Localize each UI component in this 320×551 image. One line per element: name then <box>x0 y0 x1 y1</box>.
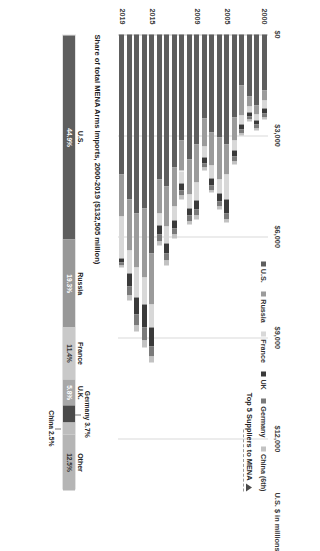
bar-segment <box>119 174 124 216</box>
bar-segment <box>202 167 207 170</box>
bar-segment <box>157 234 162 241</box>
leader-line-germany <box>75 414 81 415</box>
bar-segment <box>179 140 184 170</box>
bar-segment <box>127 34 132 199</box>
bar-segment <box>187 221 192 224</box>
bar-segment <box>247 119 252 121</box>
bar-stack <box>232 34 237 489</box>
bar-segment <box>247 34 252 96</box>
share-segment-value: 11.4% <box>66 344 73 362</box>
bar-segment <box>142 208 147 277</box>
bar-segment <box>172 228 177 234</box>
share-segment <box>63 405 75 422</box>
y-tick-label: $9,000 <box>273 326 282 349</box>
bar-stack <box>172 34 177 489</box>
bar-stack <box>134 34 139 489</box>
bar-segment <box>149 346 154 356</box>
bar-segment <box>232 140 237 150</box>
bar-segment <box>164 186 169 226</box>
bar-segment <box>217 34 222 137</box>
bar-segment <box>142 277 147 304</box>
bar-segment <box>239 34 244 85</box>
bar-segment <box>119 34 124 174</box>
bar-stack <box>142 34 147 489</box>
bar-segment <box>187 215 192 221</box>
bar-segment <box>217 179 222 193</box>
bar-segment <box>179 34 184 140</box>
bar-segment <box>172 34 177 167</box>
bar-segment <box>239 115 244 124</box>
bar-stack <box>179 34 184 489</box>
bar-segment <box>127 250 132 274</box>
bar-segment <box>134 297 139 315</box>
y-axis-tick-labels: $0$3,000$6,000$9,000$12,000 <box>270 34 282 489</box>
bar-segment <box>262 34 267 90</box>
bar-segment <box>254 128 259 130</box>
bar-segment <box>209 34 214 132</box>
bar-segment <box>187 208 192 215</box>
bar-segment <box>119 216 124 258</box>
bar-segment <box>127 199 132 250</box>
gridline <box>118 135 268 136</box>
bar-segment <box>172 167 177 206</box>
y-tick-label: $12,000 <box>273 425 282 452</box>
gridline <box>118 236 268 237</box>
bar-segment <box>164 260 169 264</box>
bar-stack <box>247 34 252 489</box>
bar-segment <box>262 113 267 117</box>
bar-segment <box>157 213 162 226</box>
bar-segment <box>194 215 199 219</box>
bar-segment <box>247 96 252 106</box>
bar-segment <box>127 273 132 286</box>
plot-area: 20002005200920152019 <box>118 34 268 489</box>
bar-segment <box>239 124 244 129</box>
bar-segment <box>142 304 147 328</box>
y-tick-label: $6,000 <box>273 225 282 248</box>
bar-segment <box>239 129 244 133</box>
bar-segment <box>262 90 267 101</box>
bar-segment <box>247 116 252 119</box>
bar-segment <box>224 34 229 144</box>
bar-segment <box>179 195 184 198</box>
bar-segment <box>262 117 267 119</box>
bar-segment <box>262 100 267 107</box>
bar-segment <box>164 34 169 186</box>
bar-segment <box>224 174 229 199</box>
bar-segment <box>187 159 192 194</box>
share-segment-name: Other <box>77 453 84 472</box>
bar-segment <box>149 304 154 328</box>
bar-segment <box>254 120 259 125</box>
x-tick-label: 2000 <box>260 8 269 24</box>
bar-segment <box>232 117 237 141</box>
share-segment-name: U.S. <box>77 130 84 144</box>
bar-segment <box>202 146 207 157</box>
bar-segment <box>127 286 132 295</box>
bar-stack <box>127 34 132 489</box>
share-segment-name: France <box>77 342 84 365</box>
x-tick-label: 2015 <box>147 8 156 24</box>
bar-segment <box>179 171 184 184</box>
gridline <box>118 337 268 338</box>
bar-segment <box>157 225 162 234</box>
bar-segment <box>224 219 229 222</box>
bar-stack <box>149 34 154 489</box>
bar-segment <box>232 161 237 164</box>
share-label-china: China 2.5% <box>48 410 55 446</box>
bar-segment <box>172 234 177 238</box>
bar-stack <box>187 34 192 489</box>
share-segment-value: 44.9% <box>66 128 73 147</box>
bar-segment <box>157 241 162 245</box>
bar-segment <box>232 156 237 161</box>
gridline <box>118 34 268 35</box>
share-segment-value: 12.5% <box>66 453 73 472</box>
bar-segment <box>179 190 184 195</box>
bar-segment <box>247 112 252 116</box>
share-segment-name: Russia <box>77 272 84 295</box>
bar-segment <box>134 267 139 297</box>
bar-segment <box>149 327 154 346</box>
bar-segment <box>202 34 207 118</box>
bar-segment <box>239 85 244 115</box>
leader-line-china <box>55 428 61 429</box>
bar-segment <box>224 144 229 174</box>
bar-segment <box>134 325 139 331</box>
